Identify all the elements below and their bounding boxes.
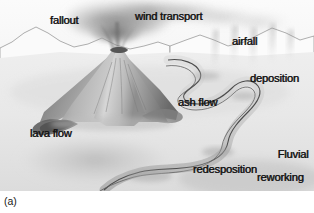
label-fluvial-line2: reworking (257, 172, 309, 184)
figure-caption: (a) (4, 195, 17, 207)
label-fluvial-line1: Fluvial (278, 148, 309, 160)
label-lava-flow: lava flow (30, 128, 72, 140)
label-fluvial-reworking: Fluvial reworking (266, 137, 309, 207)
figure-root: fallout wind transport airfall depositio… (0, 0, 314, 213)
label-ash-flow: ash flow (178, 97, 217, 109)
label-fallout: fallout (50, 15, 78, 27)
label-deposition: deposition (250, 73, 299, 85)
label-wind-transport: wind transport (135, 11, 202, 23)
label-redesposition: redesposition (193, 164, 257, 176)
label-airfall: airfall (232, 36, 257, 48)
